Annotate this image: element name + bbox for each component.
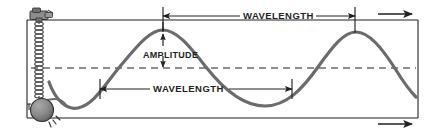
spring-icon: [35, 20, 44, 101]
amplitude-label: AMPLITUDE: [143, 51, 198, 60]
diagram-canvas: [0, 0, 429, 139]
wavelength-top-label: WAVELENGTH: [243, 11, 314, 21]
wave-curve: [49, 30, 416, 108]
bob: [31, 99, 54, 122]
wave-diagram: AMPLITUDE WAVELENGTH WAVELENGTH: [0, 0, 429, 139]
wavelength-bottom-label: WAVELENGTH: [153, 84, 224, 94]
